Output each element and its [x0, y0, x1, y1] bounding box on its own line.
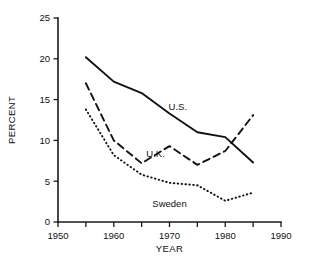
- series-label-sweden: Sweden: [152, 198, 186, 209]
- y-axis-tick-label: 10: [39, 135, 50, 146]
- x-axis-tick-label: 1960: [103, 230, 124, 241]
- series-line-sweden: [86, 109, 253, 200]
- chart-series-labels: U.S.U.K.Sweden: [146, 101, 187, 209]
- y-axis-tick-label: 0: [45, 216, 50, 227]
- y-axis-tick-label: 25: [39, 12, 50, 23]
- series-line-u-k: [86, 83, 253, 165]
- x-axis-title: YEAR: [156, 243, 183, 254]
- y-axis-tick-label: 20: [39, 53, 50, 64]
- x-axis-tick-label: 1970: [159, 230, 180, 241]
- line-chart: 051015202519501960197019801990 U.S.U.K.S…: [0, 0, 312, 266]
- chart-series: [86, 57, 253, 201]
- chart-axis-titles: PERCENTYEAR: [6, 96, 183, 254]
- series-label-u-s: U.S.: [169, 101, 187, 112]
- series-label-u-k: U.K.: [146, 148, 164, 159]
- chart-figure: 051015202519501960197019801990 U.S.U.K.S…: [0, 0, 312, 266]
- y-axis-tick-label: 15: [39, 94, 50, 105]
- y-axis-tick-label: 5: [45, 176, 50, 187]
- y-axis-title: PERCENT: [6, 96, 17, 144]
- x-axis-tick-label: 1990: [270, 230, 291, 241]
- x-axis-tick-label: 1980: [215, 230, 236, 241]
- x-axis-tick-label: 1950: [47, 230, 68, 241]
